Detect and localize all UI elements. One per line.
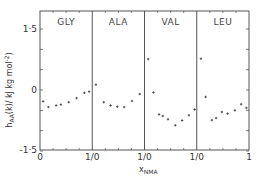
- x-axis-label: xNMA: [139, 165, 158, 175]
- y-tick-label: -1·5: [19, 145, 37, 155]
- y-tick-label: 0: [31, 85, 37, 95]
- panel-label: VAL: [161, 17, 179, 27]
- svg-text:hAA(k)/ kJ kg mol-2): hAA(k)/ kJ kg mol-2): [3, 52, 15, 127]
- panel-label: LEU: [213, 17, 232, 27]
- y-axis: 1·50-1·5: [19, 24, 249, 155]
- y-axis-label: hAA(k)/ kJ kg mol-2): [3, 52, 15, 127]
- panel-gly: GLY: [42, 11, 90, 150]
- panel-leu: LEU: [197, 11, 248, 150]
- x-tick-label: 0: [37, 152, 43, 162]
- panel-label: GLY: [57, 17, 75, 27]
- x-tick-label: 1/0: [85, 152, 100, 162]
- svg-text:xNMA: xNMA: [139, 165, 158, 175]
- x-tick-label: 1: [246, 152, 252, 162]
- panel-val: VAL: [145, 11, 196, 150]
- panel-ala: ALA: [92, 11, 141, 150]
- x-tick-label: 1/0: [137, 152, 152, 162]
- chart-figure: GLYALAVALLEU 1·50-1·5 01/01/01/01 hAA(k)…: [0, 0, 263, 180]
- panel-label: ALA: [109, 17, 128, 27]
- panels: GLYALAVALLEU: [42, 11, 248, 150]
- y-tick-label: 1·5: [23, 24, 37, 34]
- x-axis: 01/01/01/01: [37, 152, 252, 162]
- x-tick-label: 1/0: [190, 152, 205, 162]
